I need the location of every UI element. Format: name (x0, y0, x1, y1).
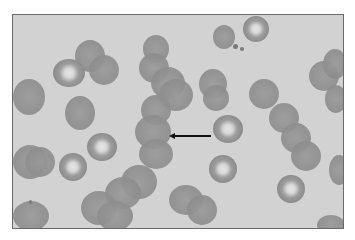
red-blood-cell (203, 85, 229, 111)
red-blood-cell-pale-center (277, 175, 305, 203)
red-blood-cell (213, 25, 235, 49)
red-blood-cell (291, 141, 321, 171)
red-blood-cell (13, 79, 45, 115)
red-blood-cell (97, 201, 133, 229)
red-blood-cell (317, 215, 344, 229)
red-blood-cell (89, 55, 119, 85)
red-blood-cell (325, 85, 344, 113)
red-blood-cell-pale-center (87, 133, 117, 161)
red-blood-cell-pale-center (243, 16, 269, 42)
red-blood-cell (249, 79, 279, 109)
red-blood-cell-pale-center (53, 59, 85, 87)
platelet-dot (233, 44, 238, 49)
red-blood-cell (13, 201, 49, 229)
arrow-left-icon (169, 133, 175, 139)
arrow-line (173, 135, 211, 137)
platelet-dot (29, 200, 32, 204)
red-blood-cell (323, 49, 344, 79)
red-blood-cell-pale-center (213, 115, 243, 143)
red-blood-cell (139, 139, 173, 169)
red-blood-cell (329, 155, 344, 185)
red-blood-cell-pale-center (209, 155, 237, 183)
red-blood-cell (65, 96, 95, 130)
red-blood-cell-pale-center (59, 153, 87, 181)
red-blood-cell (187, 195, 217, 225)
red-blood-cell (25, 147, 55, 177)
platelet-dot (240, 47, 244, 51)
micrograph-frame (12, 14, 344, 229)
